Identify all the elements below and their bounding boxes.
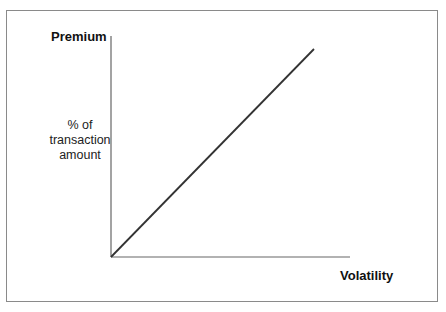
x-axis-title: Volatility xyxy=(340,268,393,283)
y-axis-subtitle-line: % of xyxy=(40,118,120,133)
y-axis-subtitle-line: amount xyxy=(40,148,120,163)
y-axis-subtitle: % of transaction amount xyxy=(40,118,120,163)
premium-line xyxy=(111,49,314,257)
y-axis-title: Premium xyxy=(51,29,107,44)
y-axis-subtitle-line: transaction xyxy=(40,133,120,148)
